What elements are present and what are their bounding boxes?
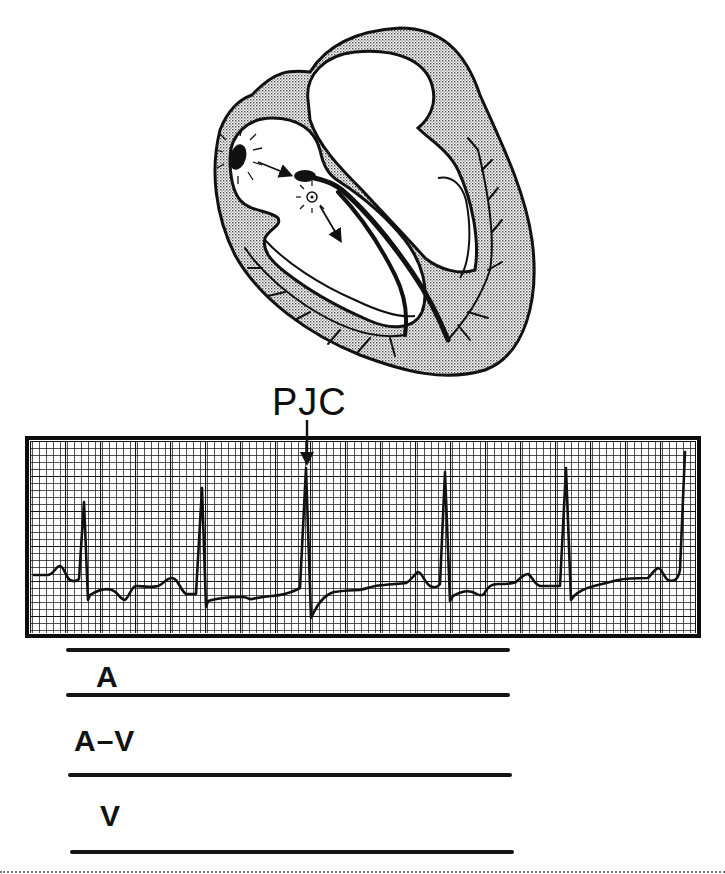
heart-conduction-diagram [190,0,550,380]
ecg-grid [30,441,696,633]
ecg-rhythm-strip [0,380,725,650]
ladder-label-av-junction: A–V [74,725,135,757]
page-bottom-dotted-rule [0,871,725,873]
ladder-rule-top [66,648,510,652]
ladder-rule-bottom [70,850,514,854]
ladder-label-ventricular: V [100,800,121,832]
av-node-icon [294,170,316,182]
ladder-label-atrial: A [96,661,119,693]
ladder-rule-av-ventricular [68,773,512,777]
ladder-rule-atrial-av [66,693,510,697]
